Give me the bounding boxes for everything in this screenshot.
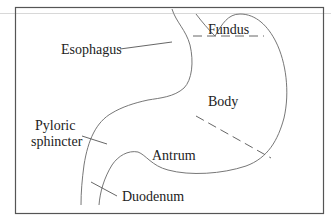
label-duodenum: Duodenum [122, 189, 184, 204]
label-antrum: Antrum [152, 148, 196, 163]
label-pyloric: Pyloric [35, 118, 75, 133]
duodenum-leader-line [91, 182, 117, 196]
greater-curvature-outline [99, 14, 287, 205]
label-body: Body [208, 94, 238, 109]
esophagus-leader-line [120, 42, 172, 49]
body-antrum-boundary-dashed-line [196, 116, 271, 158]
stomach-diagram: Esophagus Fundus Body Pyloric sphincter … [0, 0, 331, 217]
label-sphincter: sphincter [31, 134, 83, 149]
label-esophagus: Esophagus [61, 42, 122, 57]
pyloric-leader-line [82, 136, 107, 144]
lesser-curvature-outline [81, 9, 192, 205]
diagram-frame [16, 8, 324, 214]
label-fundus: Fundus [208, 22, 249, 37]
